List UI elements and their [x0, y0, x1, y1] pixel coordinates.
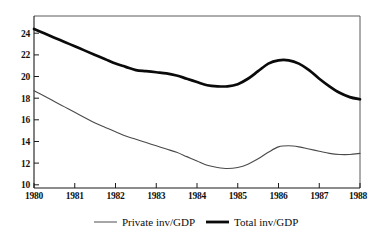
- legend-label-total: Total inv/GDP: [234, 216, 298, 228]
- y-axis-ticks: [34, 33, 39, 185]
- y-tick-label-20: 20: [21, 72, 31, 82]
- legend-label-private: Private inv/GDP: [122, 216, 195, 228]
- x-tick-label-1980: 1980: [25, 191, 44, 201]
- y-tick-label-10: 10: [21, 180, 31, 190]
- chart-legend: Private inv/GDP Total inv/GDP: [94, 216, 298, 228]
- x-tick-label-1982: 1982: [106, 191, 125, 201]
- series-line-total-inv-gdp: [34, 29, 360, 99]
- y-tick-label-22: 22: [21, 50, 31, 60]
- plot-frame-top-right: [34, 16, 360, 188]
- x-tick-label-1987: 1987: [310, 191, 329, 201]
- y-tick-label-16: 16: [21, 115, 31, 125]
- y-tick-label-12: 12: [21, 159, 31, 169]
- series-line-private-inv-gdp: [34, 91, 360, 169]
- y-tick-label-24: 24: [21, 29, 31, 39]
- x-tick-label-1985: 1985: [229, 191, 248, 201]
- x-tick-label-1986: 1986: [269, 191, 288, 201]
- x-tick-label-1984: 1984: [188, 191, 207, 201]
- x-tick-label-1983: 1983: [147, 191, 166, 201]
- x-tick-label-1981: 1981: [66, 191, 85, 201]
- x-axis-tick-labels: 1980 1981 1982 1983 1984 1985 1986 1987 …: [25, 191, 368, 201]
- investment-gdp-line-chart: 24 22 20 18 16 14 12 10 1980 1981 1982: [0, 0, 379, 237]
- y-tick-label-14: 14: [21, 137, 31, 147]
- y-tick-label-18: 18: [21, 94, 31, 104]
- x-axis-ticks: [34, 183, 360, 188]
- y-axis-tick-labels: 24 22 20 18 16 14 12 10: [21, 29, 31, 191]
- chart-canvas: 24 22 20 18 16 14 12 10 1980 1981 1982: [0, 0, 379, 237]
- x-tick-label-1988: 1988: [349, 191, 368, 201]
